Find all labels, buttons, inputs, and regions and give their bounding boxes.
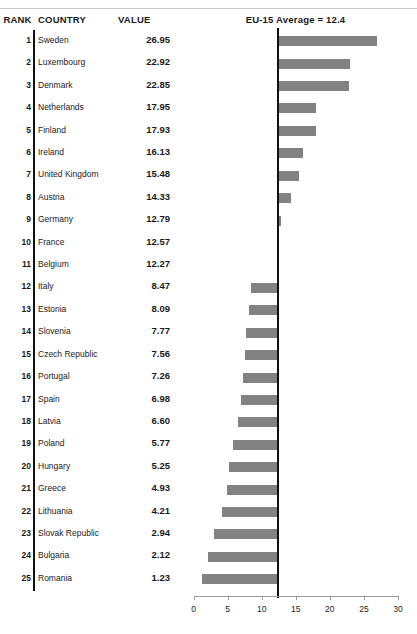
table-row: 22Lithuania4.21 — [0, 501, 417, 523]
row-country: Denmark — [38, 80, 72, 90]
x-axis-tick-label: 10 — [250, 604, 274, 614]
row-rank: 22 — [2, 506, 31, 516]
row-rank: 8 — [2, 192, 31, 202]
table-row: 21Greece4.93 — [0, 478, 417, 500]
row-rank: 20 — [2, 461, 31, 471]
row-value: 6.98 — [118, 393, 170, 404]
row-country: Germany — [38, 214, 73, 224]
x-axis-tick-label: 0 — [182, 604, 206, 614]
column-header-country: COUNTRY — [38, 14, 86, 25]
row-rank: 5 — [2, 125, 31, 135]
row-rank: 1 — [2, 35, 31, 45]
table-row: 4Netherlands17.95 — [0, 97, 417, 119]
row-value: 8.09 — [118, 303, 170, 314]
table-row: 15Czech Republic7.56 — [0, 344, 417, 366]
row-rank: 9 — [2, 214, 31, 224]
table-row: 12Italy8.47 — [0, 276, 417, 298]
row-value: 12.57 — [118, 236, 170, 247]
row-rank: 24 — [2, 550, 31, 560]
table-row: 5Finland17.93 — [0, 120, 417, 142]
x-axis-tick-label: 20 — [318, 604, 342, 614]
x-axis-tick — [262, 596, 263, 600]
row-rank: 3 — [2, 80, 31, 90]
x-axis-tick — [296, 596, 297, 600]
row-value: 7.77 — [118, 325, 170, 336]
row-value: 4.21 — [118, 505, 170, 516]
row-rank: 19 — [2, 438, 31, 448]
row-rank: 25 — [2, 573, 31, 583]
row-value: 26.95 — [118, 34, 170, 45]
x-axis-tick — [364, 596, 365, 600]
table-row: 8Austria14.33 — [0, 187, 417, 209]
chart-page: RANK COUNTRY VALUE EU-15 Average = 12.4 … — [0, 0, 417, 634]
row-country: Finland — [38, 125, 66, 135]
table-row: 17Spain6.98 — [0, 389, 417, 411]
row-value: 4.93 — [118, 482, 170, 493]
row-country: Spain — [38, 394, 60, 404]
row-rank: 18 — [2, 416, 31, 426]
row-country: Portugal — [38, 371, 70, 381]
table-row: 9Germany12.79 — [0, 209, 417, 231]
row-rank: 10 — [2, 237, 31, 247]
row-rank: 21 — [2, 483, 31, 493]
row-country: Sweden — [38, 35, 69, 45]
row-value: 12.79 — [118, 213, 170, 224]
table-row: 6Ireland16.13 — [0, 142, 417, 164]
data-table-body: 1Sweden26.952Luxembourg22.923Denmark22.8… — [0, 30, 417, 590]
x-axis-tick — [194, 596, 195, 600]
row-rank: 13 — [2, 304, 31, 314]
table-row: 20Hungary5.25 — [0, 456, 417, 478]
row-value: 8.47 — [118, 280, 170, 291]
row-rank: 17 — [2, 394, 31, 404]
row-country: Romania — [38, 573, 72, 583]
table-row: 13Estonia8.09 — [0, 299, 417, 321]
column-header-value: VALUE — [118, 14, 151, 25]
row-country: Lithuania — [38, 506, 73, 516]
row-value: 22.92 — [118, 56, 170, 67]
row-value: 2.94 — [118, 527, 170, 538]
row-rank: 15 — [2, 349, 31, 359]
row-rank: 14 — [2, 326, 31, 336]
row-value: 15.48 — [118, 168, 170, 179]
row-country: Slovak Republic — [38, 528, 99, 538]
row-rank: 12 — [2, 281, 31, 291]
table-row: 7United Kingdom15.48 — [0, 164, 417, 186]
table-row: 10France12.57 — [0, 232, 417, 254]
x-axis-line — [194, 596, 399, 597]
row-country: Netherlands — [38, 102, 84, 112]
x-axis-tick-label: 15 — [284, 604, 308, 614]
row-value: 7.56 — [118, 348, 170, 359]
row-value: 6.60 — [118, 415, 170, 426]
top-divider-rule — [0, 8, 417, 9]
row-country: Ireland — [38, 147, 64, 157]
row-country: Czech Republic — [38, 349, 98, 359]
row-value: 16.13 — [118, 146, 170, 157]
row-value: 7.26 — [118, 370, 170, 381]
row-value: 5.25 — [118, 460, 170, 471]
table-row: 16Portugal7.26 — [0, 366, 417, 388]
x-axis-tick — [330, 596, 331, 600]
row-rank: 16 — [2, 371, 31, 381]
row-country: Poland — [38, 438, 64, 448]
table-row: 23Slovak Republic2.94 — [0, 523, 417, 545]
row-rank: 6 — [2, 147, 31, 157]
x-axis-tick — [228, 596, 229, 600]
table-row: 3Denmark22.85 — [0, 75, 417, 97]
row-value: 22.85 — [118, 79, 170, 90]
table-row: 24Bulgaria2.12 — [0, 545, 417, 567]
row-country: Slovenia — [38, 326, 71, 336]
row-country: Luxembourg — [38, 57, 85, 67]
row-country: Greece — [38, 483, 66, 493]
row-country: France — [38, 237, 64, 247]
row-country: Bulgaria — [38, 550, 69, 560]
row-value: 12.27 — [118, 258, 170, 269]
row-value: 2.12 — [118, 549, 170, 560]
row-value: 17.95 — [118, 101, 170, 112]
row-value: 14.33 — [118, 191, 170, 202]
table-row: 25Romania1.23 — [0, 568, 417, 590]
row-rank: 2 — [2, 57, 31, 67]
chart-title: EU-15 Average = 12.4 — [193, 14, 398, 25]
x-axis-tick-label: 5 — [216, 604, 240, 614]
row-country: Italy — [38, 281, 54, 291]
row-country: Belgium — [38, 259, 69, 269]
